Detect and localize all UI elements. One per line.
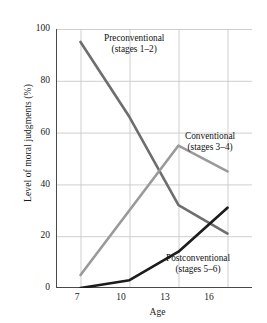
x-tick-label-7: 7: [62, 293, 92, 303]
y-tick-label-20: 20: [22, 231, 50, 241]
y-tick-label-60: 60: [22, 128, 50, 138]
x-tick-label-10: 10: [106, 293, 136, 303]
annotation-preconventional: Preconventional (stages 1–2): [104, 33, 164, 54]
y-tick-label-80: 80: [22, 76, 50, 86]
series-canvas: [56, 29, 252, 288]
annotation-postconventional-name: Postconventional: [166, 253, 230, 264]
x-axis-title: Age: [0, 307, 267, 317]
y-tick-label-40: 40: [22, 180, 50, 190]
annotation-postconventional: Postconventional (stages 5–6): [166, 253, 230, 274]
annotation-preconventional-name: Preconventional: [104, 33, 164, 44]
x-tick-label-13: 13: [150, 293, 180, 303]
annotation-conventional: Conventional (stages 3–4): [185, 131, 235, 152]
y-tick-label-0: 0: [22, 283, 50, 293]
annotation-postconventional-stages: (stages 5–6): [166, 264, 230, 275]
y-tick-label-100: 100: [22, 24, 50, 34]
moral-judgment-line-chart: Level of moral judgments (%) 100 80 60 4…: [0, 0, 267, 323]
annotation-conventional-name: Conventional: [185, 131, 235, 142]
x-tick-label-16: 16: [194, 293, 224, 303]
plot-area: [56, 29, 252, 288]
annotation-preconventional-stages: (stages 1–2): [104, 44, 164, 55]
annotation-conventional-stages: (stages 3–4): [185, 142, 235, 153]
